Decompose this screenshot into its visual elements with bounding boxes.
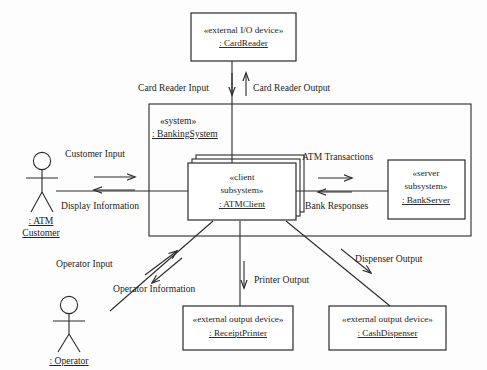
atm-client-stereotype-line2: subsystem» xyxy=(221,185,264,195)
atm-client-name: : ATMClient xyxy=(219,199,266,209)
line-atmclient-to-operator xyxy=(110,221,213,311)
message-printer-output: Printer Output xyxy=(254,274,309,285)
actor-head-operator xyxy=(60,296,77,313)
banking-system-stereotype: «system» xyxy=(160,115,196,126)
bank-server-name: : BankServer xyxy=(402,195,450,205)
actor-label-atm-customer-line1: : ATM xyxy=(29,215,54,226)
actor-label-operator: : Operator xyxy=(49,355,89,366)
receipt-printer-stereotype: «external output device» xyxy=(193,314,284,324)
diagram-canvas: «external I/O device» : CardReader «syst… xyxy=(0,0,487,370)
message-customer-input: Customer Input xyxy=(65,148,125,159)
message-card-reader-input: Card Reader Input xyxy=(138,82,209,93)
actor-label-atm-customer-line2: Customer xyxy=(22,227,60,238)
actor-operator xyxy=(53,296,85,352)
message-dispenser-output: Dispenser Output xyxy=(355,253,423,264)
arrow-operator-input xyxy=(145,251,177,275)
receipt-printer-name: : ReceiptPrinter xyxy=(209,328,267,338)
cash-dispenser-name: : CashDispenser xyxy=(358,328,418,338)
message-bank-responses: Bank Responses xyxy=(305,200,368,211)
banking-system-name: : BankingSystem xyxy=(152,128,218,139)
message-card-reader-output: Card Reader Output xyxy=(253,82,331,93)
message-operator-input: Operator Input xyxy=(56,258,113,269)
uml-communication-diagram: «external I/O device» : CardReader «syst… xyxy=(0,0,487,370)
message-atm-transactions: ATM Transactions xyxy=(302,151,373,162)
card-reader-name: : CardReader xyxy=(219,38,268,48)
message-operator-information: Operator Information xyxy=(113,283,196,294)
bank-server-stereotype-line2: subsystem» xyxy=(405,181,448,191)
atm-client-stereotype-line1: «client xyxy=(229,172,254,182)
actor-body-operator xyxy=(53,314,85,352)
card-reader-box xyxy=(191,13,296,61)
actor-atm-customer xyxy=(26,152,58,212)
card-reader-stereotype: «external I/O device» xyxy=(204,25,284,35)
actor-body-customer xyxy=(26,170,58,212)
actor-head-customer xyxy=(33,152,50,169)
bank-server-stereotype-line1: «server xyxy=(412,168,439,178)
cash-dispenser-stereotype: «external output device» xyxy=(342,314,433,324)
message-display-information: Display Information xyxy=(61,200,139,211)
